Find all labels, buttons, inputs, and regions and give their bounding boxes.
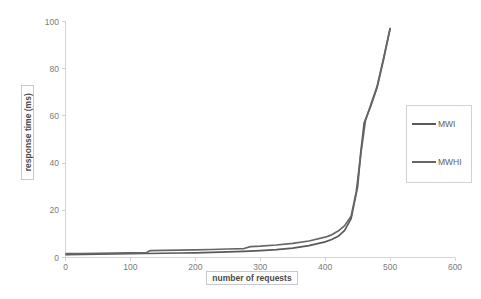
legend-label-mwhi: MWHI [438,158,462,167]
line-chart: 020406080100 0100200300400500600 respons… [0,0,481,299]
y-tick-label: 40 [50,158,60,168]
x-tick-label: 200 [188,262,202,272]
x-axis-title-text: number of requests [212,274,291,283]
y-tick-label: 80 [50,64,60,74]
y-tick-label: 60 [50,111,60,121]
legend-swatch-mwi [412,123,436,125]
y-axis-title-text: response time (ms) [23,94,32,172]
legend-label-mwi: MWI [438,120,455,129]
x-tick-label: 0 [63,262,68,272]
legend-swatch-mwhi [412,161,436,163]
x-tick-label: 600 [448,262,462,272]
x-tick-label: 400 [318,262,332,272]
x-tick-label: 300 [253,262,267,272]
x-axis-title: number of requests [206,271,298,285]
y-tick-label: 100 [45,17,59,27]
series-line-mwhi [66,29,390,254]
x-tick-label: 500 [383,262,397,272]
series-line-mwi [66,29,390,255]
x-axis-tick-labels: 0100200300400500600 [63,258,462,272]
x-tick-label: 100 [123,262,137,272]
y-tick-label: 0 [54,253,59,263]
y-axis-title: response time (ms) [21,85,34,180]
chart-legend: MWI MWHI [406,105,472,183]
y-tick-label: 20 [50,205,60,215]
y-axis-tick-labels: 020406080100 [45,17,66,263]
legend-item-mwhi: MWHI [412,158,462,167]
data-series-group [66,29,390,255]
legend-item-mwi: MWI [412,120,455,129]
